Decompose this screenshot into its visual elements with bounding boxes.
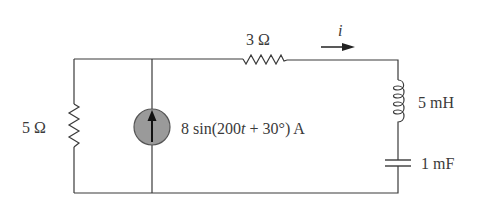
label-inductor: 5 mH: [418, 94, 454, 111]
label-capacitor: 1 mF: [421, 155, 454, 172]
top-wire-right: [287, 60, 398, 80]
arrow-head-icon: [342, 43, 355, 51]
label-5-ohm: 5 Ω: [22, 119, 46, 136]
resistor-3-ohm: [243, 55, 287, 64]
label-source: 8 sin(200t + 30°) A: [181, 120, 305, 138]
resistor-5-ohm: [69, 104, 79, 147]
inductor-coil-icon: [394, 80, 405, 127]
current-source: [134, 109, 170, 145]
label-3-ohm: 3 Ω: [246, 31, 270, 48]
circuit-diagram: 5 Ω 8 sin(200t + 30°) A 3 Ω i 5 mH 1 mF: [0, 0, 492, 210]
label-current: i: [338, 22, 342, 39]
inductor-5-mH: [394, 80, 405, 127]
capacitor-1-mF: [385, 160, 411, 166]
resistor-zigzag-icon: [243, 55, 287, 64]
current-arrow: [321, 43, 355, 51]
bottom-wire: [74, 166, 398, 193]
resistor-zigzag-icon: [69, 104, 79, 147]
